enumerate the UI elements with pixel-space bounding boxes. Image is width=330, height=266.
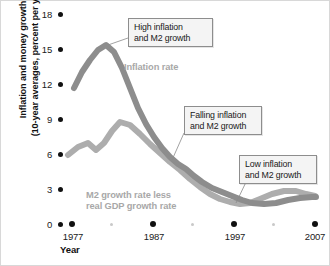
y-tick-label-15: 15 bbox=[30, 44, 52, 55]
y-tick-label-0: 0 bbox=[30, 219, 52, 230]
x-tick-dot-minor-1982 bbox=[110, 223, 113, 226]
annotation-low-inflation: Low inflation and M2 growth bbox=[239, 155, 317, 184]
y-tick-label-3: 3 bbox=[30, 184, 52, 195]
x-tick-dot-1987 bbox=[150, 221, 156, 227]
x-tick-label-1987: 1987 bbox=[134, 231, 174, 242]
y-tick-label-12: 12 bbox=[30, 79, 52, 90]
x-tick-dot-minor-2002 bbox=[272, 223, 275, 226]
y-tick-dot-12 bbox=[58, 82, 63, 87]
connector-high-inflation bbox=[108, 38, 128, 45]
y-tick-dot-15 bbox=[58, 47, 63, 52]
x-tick-label-1997: 1997 bbox=[215, 231, 255, 242]
y-tick-label-6: 6 bbox=[30, 149, 52, 160]
y-tick-dot-0 bbox=[58, 222, 63, 227]
y-tick-dot-18 bbox=[58, 12, 63, 17]
y-tick-dot-9 bbox=[58, 117, 63, 122]
series-label-m2-growth: M2 growth rate less real GDP growth rate bbox=[86, 190, 176, 212]
chart-figure: Inflation and money growth (10-year aver… bbox=[0, 0, 330, 266]
x-tick-dot-1977 bbox=[69, 221, 75, 227]
y-tick-dot-6 bbox=[58, 152, 63, 157]
y-axis-title: Inflation and money growth (10-year aver… bbox=[18, 0, 41, 155]
connector-falling-inflation bbox=[172, 133, 184, 160]
x-tick-dot-1997 bbox=[231, 221, 237, 227]
series-label-inflation-rate: Inflation rate bbox=[124, 62, 178, 73]
annotation-high-inflation: High inflation and M2 growth bbox=[128, 18, 213, 47]
y-tick-dot-3 bbox=[58, 187, 63, 192]
x-tick-dot-2007 bbox=[312, 221, 318, 227]
x-axis-title: Year bbox=[60, 244, 80, 255]
y-tick-label-18: 18 bbox=[30, 9, 52, 20]
x-tick-label-1977: 1977 bbox=[53, 231, 93, 242]
x-tick-dot-minor-1992 bbox=[191, 223, 194, 226]
y-tick-label-9: 9 bbox=[30, 114, 52, 125]
annotation-falling-inflation: Falling inflation and M2 growth bbox=[184, 106, 262, 135]
x-tick-label-2007: 2007 bbox=[295, 231, 330, 242]
